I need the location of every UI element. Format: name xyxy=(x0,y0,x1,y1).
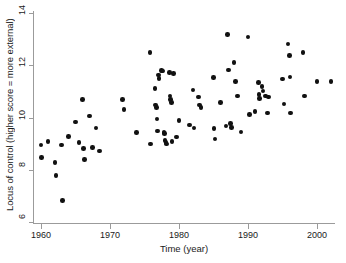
data-point xyxy=(288,111,293,116)
y-tick-label: 6 xyxy=(14,214,30,219)
data-point xyxy=(196,95,201,100)
data-point xyxy=(171,71,176,76)
data-point xyxy=(81,146,86,151)
data-point xyxy=(80,97,85,102)
data-point xyxy=(122,107,127,112)
y-tick-mark xyxy=(29,222,34,223)
y-tick-label: 14 xyxy=(14,5,30,15)
y-tick-label: 8 xyxy=(14,162,30,167)
data-point xyxy=(233,79,238,84)
y-tick-label: 10 xyxy=(14,110,30,120)
x-tick-mark xyxy=(179,224,180,229)
data-point xyxy=(46,139,51,144)
data-point xyxy=(120,97,125,102)
data-point xyxy=(90,145,95,150)
scatter-plot-figure: Locus of control (higher score = more ex… xyxy=(0,0,346,263)
data-point xyxy=(187,123,192,128)
x-tick-mark xyxy=(41,224,42,229)
x-tick-label: 2000 xyxy=(297,230,337,240)
x-tick-mark xyxy=(317,224,318,229)
data-point xyxy=(174,135,179,140)
data-point xyxy=(87,114,92,119)
data-point xyxy=(169,100,174,105)
data-point xyxy=(287,53,292,58)
data-point xyxy=(153,86,158,91)
x-tick-label: 1960 xyxy=(21,230,61,240)
data-point xyxy=(97,149,102,154)
data-point xyxy=(329,79,334,84)
x-tick-mark xyxy=(248,224,249,229)
y-tick-label: 12 xyxy=(14,57,30,67)
x-axis-line xyxy=(33,223,335,224)
data-point xyxy=(60,198,65,203)
data-point xyxy=(157,76,162,81)
data-point xyxy=(229,125,234,130)
data-point xyxy=(134,130,139,135)
data-point xyxy=(82,157,87,162)
data-point xyxy=(77,140,82,145)
data-point xyxy=(211,75,216,80)
data-point xyxy=(162,131,167,136)
data-point xyxy=(160,69,165,74)
data-point xyxy=(59,143,64,148)
data-point xyxy=(226,68,231,73)
data-point xyxy=(66,134,71,139)
x-tick-label: 1970 xyxy=(90,230,130,240)
data-point xyxy=(315,79,320,84)
data-point xyxy=(218,100,223,105)
data-point xyxy=(154,105,159,110)
data-point xyxy=(53,160,58,165)
x-axis-title: Time (year) xyxy=(34,243,334,254)
data-point xyxy=(265,111,270,116)
data-point xyxy=(39,155,44,160)
x-tick-mark xyxy=(110,224,111,229)
data-point xyxy=(257,96,262,101)
data-point xyxy=(247,112,252,117)
x-tick-label: 1980 xyxy=(159,230,199,240)
x-tick-label: 1990 xyxy=(228,230,268,240)
data-point xyxy=(280,77,285,82)
data-point xyxy=(225,32,230,37)
